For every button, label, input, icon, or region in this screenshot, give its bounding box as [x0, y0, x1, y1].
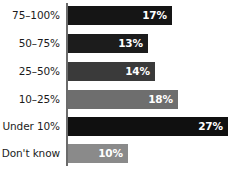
bar: 27% [68, 117, 228, 136]
bar-value-label: 17% [142, 6, 167, 25]
bar-chart: 75–100% 17% 50–75% 13% 25–50% 14% 10–25%… [0, 0, 236, 171]
bar-value-label: 27% [198, 117, 223, 136]
bar: 10% [68, 144, 128, 163]
bar-value-label: 10% [98, 144, 123, 163]
bar-row: 10–25% 18% [0, 90, 236, 109]
category-label: Don't know [0, 144, 60, 163]
bar-value-label: 13% [118, 34, 143, 53]
bar: 14% [68, 62, 155, 81]
bar: 17% [68, 6, 172, 25]
bar-row: 75–100% 17% [0, 6, 236, 25]
bar: 18% [68, 90, 178, 109]
bar-value-label: 14% [125, 62, 150, 81]
bar: 13% [68, 34, 148, 53]
bar-series: 75–100% 17% 50–75% 13% 25–50% 14% 10–25%… [0, 0, 236, 171]
category-label: Under 10% [0, 117, 60, 136]
category-label: 75–100% [0, 6, 60, 25]
category-label: 25–50% [0, 62, 60, 81]
category-label: 10–25% [0, 90, 60, 109]
bar-row: 50–75% 13% [0, 34, 236, 53]
category-label: 50–75% [0, 34, 60, 53]
bar-row: Under 10% 27% [0, 117, 236, 136]
bar-value-label: 18% [148, 90, 173, 109]
bar-row: 25–50% 14% [0, 62, 236, 81]
bar-row: Don't know 10% [0, 144, 236, 163]
